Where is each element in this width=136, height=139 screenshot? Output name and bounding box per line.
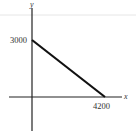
y-axis-label: y — [29, 0, 34, 9]
x-intercept-label: 4200 — [93, 101, 110, 111]
data-line — [32, 40, 105, 97]
y-intercept-label: 3000 — [10, 35, 27, 45]
chart: y x 3000 4200 — [0, 0, 136, 139]
x-axis-label: x — [123, 92, 128, 101]
